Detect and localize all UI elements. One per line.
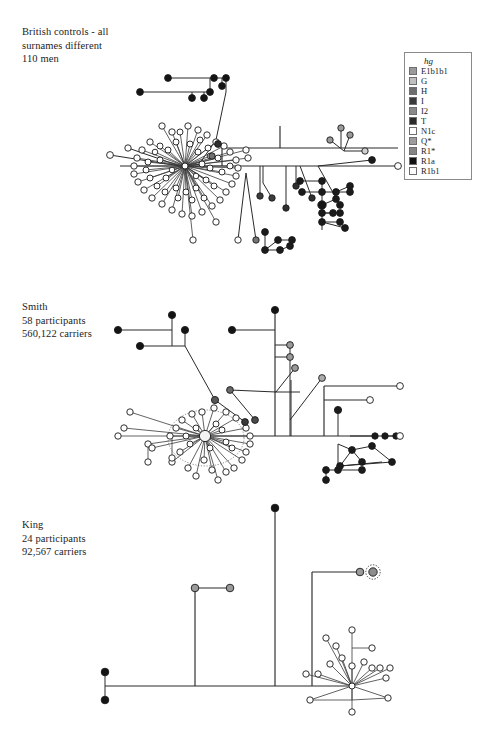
legend-item-t[interactable]: T bbox=[409, 116, 471, 126]
legend-item-q-star[interactable]: Q* bbox=[409, 136, 471, 146]
legend-label-t: T bbox=[421, 117, 426, 126]
legend-swatch-r1a bbox=[409, 157, 417, 165]
legend-swatch-r1b1 bbox=[409, 167, 417, 175]
legend-item-i[interactable]: I bbox=[409, 96, 471, 106]
panel-label-king: King 24 participants 92,567 carriers bbox=[22, 518, 86, 559]
legend-item-n1c[interactable]: N1c bbox=[409, 126, 471, 136]
legend-label-g: G bbox=[421, 77, 427, 86]
legend-label-i2: I2 bbox=[421, 107, 428, 116]
legend-item-r1b1[interactable]: R1b1 bbox=[409, 166, 471, 176]
legend-label-n1c: N1c bbox=[421, 127, 435, 136]
legend-swatch-g bbox=[409, 77, 417, 85]
legend-title: hg bbox=[424, 56, 471, 66]
highlighted-node-king bbox=[369, 568, 377, 576]
legend-item-r1a[interactable]: R1a bbox=[409, 156, 471, 166]
legend-box: hg E1b1b1 G H I I2 T N1c bbox=[404, 52, 472, 180]
legend-label-r1b1: R1b1 bbox=[421, 167, 440, 176]
legend-label-r1a: R1a bbox=[421, 157, 435, 166]
panel-label-smith: Smith 58 participants 560,122 carriers bbox=[22, 300, 92, 341]
legend-label-e1b1b1: E1b1b1 bbox=[421, 67, 448, 76]
cluster-r1b1-smith bbox=[115, 405, 253, 483]
panel-king bbox=[101, 504, 393, 715]
panel-british-controls bbox=[107, 75, 402, 254]
legend-item-i2[interactable]: I2 bbox=[409, 106, 471, 116]
legend-label-i: I bbox=[421, 97, 424, 106]
legend-item-r1-star[interactable]: R1* bbox=[409, 146, 471, 156]
legend-swatch-i2 bbox=[409, 107, 417, 115]
legend-label-q-star: Q* bbox=[421, 137, 432, 146]
legend-swatch-t bbox=[409, 117, 417, 125]
legend-swatch-r1-star bbox=[409, 147, 417, 155]
legend-item-h[interactable]: H bbox=[409, 86, 471, 96]
legend-swatch-e1b1b1 bbox=[409, 67, 417, 75]
legend-item-g[interactable]: G bbox=[409, 76, 471, 86]
legend-swatch-q-star bbox=[409, 137, 417, 145]
panel-smith bbox=[114, 306, 403, 483]
cluster-r1b1-king bbox=[303, 627, 393, 715]
legend-label-r1-star: R1* bbox=[421, 147, 435, 156]
panel-label-british-controls: British controls - all surnames differen… bbox=[22, 25, 108, 66]
figure-canvas: British controls - all surnames differen… bbox=[0, 0, 480, 730]
cluster-r1b1-british bbox=[107, 123, 252, 243]
legend-label-h: H bbox=[421, 87, 427, 96]
legend-item-e1b1b1[interactable]: E1b1b1 bbox=[409, 66, 471, 76]
legend-swatch-n1c bbox=[409, 127, 417, 135]
legend-swatch-i bbox=[409, 97, 417, 105]
legend-swatch-h bbox=[409, 87, 417, 95]
